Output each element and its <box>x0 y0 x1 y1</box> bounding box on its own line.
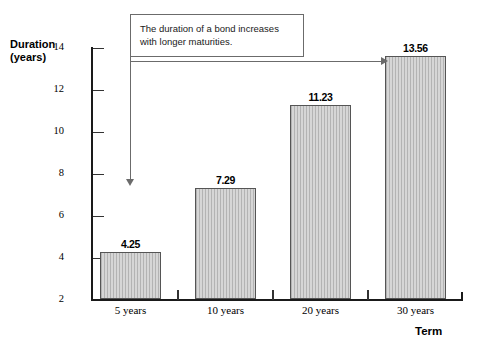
x-label-30-years: 30 years <box>385 304 446 316</box>
annotation-callout: The duration of a bond increases with lo… <box>130 14 304 57</box>
y-tick-mark-12 <box>93 90 104 91</box>
bar-value-5-years: 4.25 <box>100 238 161 250</box>
y-tick-mark-10 <box>93 132 104 133</box>
y-tick-label-12: 12 <box>42 83 64 94</box>
bar-chart-figure: Duration (years) 14 12 10 8 6 4 2 4.25 5… <box>0 0 490 351</box>
y-tick-12: 12 <box>0 90 104 91</box>
annotation-text: The duration of a bond increases with lo… <box>140 22 300 48</box>
y-tick-4: 4 <box>0 258 104 259</box>
arrow-right-icon <box>381 57 388 65</box>
y-tick-6: 6 <box>0 216 104 217</box>
arrow-down-icon <box>126 179 134 186</box>
y-tick-label-6: 6 <box>42 209 64 220</box>
y-axis-title-line2: (years) <box>10 51 80 64</box>
annotation-text-line2: with longer maturities. <box>140 35 300 48</box>
x-separator-tick-1 <box>177 290 179 300</box>
x-axis-line <box>91 299 463 301</box>
callout-leader-down <box>130 61 131 180</box>
y-tick-label-2: 2 <box>42 293 64 304</box>
x-axis-title: Term <box>415 325 442 337</box>
y-tick-8: 8 <box>0 174 104 175</box>
annotation-text-line1: The duration of a bond increases <box>140 22 300 35</box>
bar-30-years[interactable] <box>385 56 446 299</box>
y-tick-label-8: 8 <box>42 167 64 178</box>
y-tick-10: 10 <box>0 132 104 133</box>
callout-leader-horizontal <box>130 61 381 62</box>
y-tick-mark-8 <box>93 174 104 175</box>
x-label-5-years: 5 years <box>100 304 161 316</box>
x-label-10-years: 10 years <box>195 304 256 316</box>
bar-value-20-years: 11.23 <box>290 91 351 103</box>
bar-10-years[interactable] <box>195 188 256 299</box>
y-tick-2: 2 <box>0 300 104 301</box>
y-tick-label-14: 14 <box>42 41 64 52</box>
y-tick-14: 14 <box>0 48 104 49</box>
y-tick-mark-14 <box>93 48 104 49</box>
bar-value-10-years: 7.29 <box>195 174 256 186</box>
bar-value-30-years: 13.56 <box>385 42 446 54</box>
y-tick-mark-6 <box>93 216 104 217</box>
x-label-20-years: 20 years <box>290 304 351 316</box>
x-separator-tick-3 <box>367 290 369 300</box>
bar-5-years[interactable] <box>100 252 161 299</box>
y-tick-label-10: 10 <box>42 125 64 136</box>
x-axis-end-tick <box>461 292 463 301</box>
y-tick-label-4: 4 <box>42 251 64 262</box>
x-separator-tick-2 <box>272 290 274 300</box>
bar-20-years[interactable] <box>290 105 351 299</box>
